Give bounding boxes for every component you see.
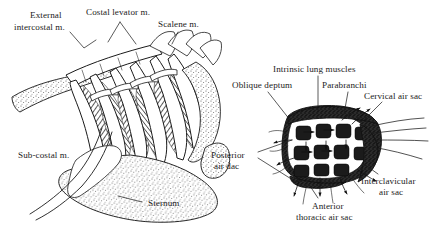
label-interclavicular-air-sac-line1: Interclavicular bbox=[361, 176, 416, 186]
label-posterior-air-sac-line2: air dac bbox=[214, 161, 239, 171]
left-panel-drawing bbox=[12, 22, 230, 233]
label-external-intercostal-line1: External bbox=[30, 10, 62, 20]
label-sternum: Sternum bbox=[148, 198, 180, 208]
label-sub-costal: Sub-costal m. bbox=[18, 150, 69, 160]
label-posterior-air-sac-line1: Posterior bbox=[211, 150, 245, 160]
label-anterior-thoracic-air-sac-line1: Anterior bbox=[312, 201, 344, 211]
label-scalene: Scalene m. bbox=[158, 19, 199, 29]
anatomy-figure: External intercostal m. Costal levator m… bbox=[0, 0, 436, 244]
label-interclavicular-air-sac-line2: air sac bbox=[379, 187, 403, 197]
label-costal-levator: Costal levator m. bbox=[86, 7, 150, 17]
label-anterior-thoracic-air-sac-line2: thoracic air sac bbox=[296, 212, 353, 222]
dorsal-vertebrae bbox=[150, 30, 222, 65]
figure-canvas: External intercostal m. Costal levator m… bbox=[0, 0, 436, 244]
label-external-intercostal-line2: intercostal m. bbox=[14, 22, 65, 32]
label-cervical-air-sac: Cervical air sac bbox=[364, 91, 422, 101]
label-parabranchi: Parabranchi bbox=[322, 80, 367, 90]
label-intrinsic-lung-muscles: Intrinsic lung muscles bbox=[273, 64, 356, 74]
label-oblique-septum: Oblique deptum bbox=[232, 80, 292, 90]
